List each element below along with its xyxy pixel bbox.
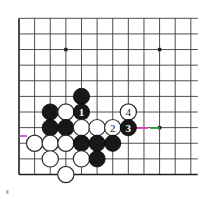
stone-white[interactable] bbox=[42, 135, 58, 151]
stone-black[interactable] bbox=[89, 151, 105, 167]
stone-white[interactable] bbox=[42, 151, 58, 167]
star-point bbox=[158, 48, 161, 51]
move-number-label: 3 bbox=[126, 122, 132, 134]
black-stone-icon bbox=[89, 151, 105, 167]
black-stone-icon bbox=[42, 120, 58, 136]
white-stone-icon bbox=[58, 135, 74, 151]
black-stone-icon bbox=[73, 135, 89, 151]
stone-white[interactable] bbox=[73, 120, 89, 136]
board-gridlines bbox=[19, 18, 198, 174]
black-stone-icon bbox=[58, 120, 74, 136]
stone-white[interactable] bbox=[58, 135, 74, 151]
stone-black[interactable] bbox=[73, 135, 89, 151]
star-point bbox=[64, 48, 67, 51]
move-number-label: 4 bbox=[126, 106, 132, 118]
black-stone-icon bbox=[73, 88, 89, 104]
go-diagram-root: 1423 bbox=[0, 0, 217, 199]
stone-white[interactable] bbox=[89, 120, 105, 136]
stone-black[interactable] bbox=[42, 120, 58, 136]
stone-white[interactable] bbox=[58, 166, 74, 182]
stone-black[interactable] bbox=[58, 120, 74, 136]
white-stone-icon bbox=[89, 120, 105, 136]
move-stone-4[interactable]: 4 bbox=[120, 104, 136, 120]
stone-black[interactable] bbox=[105, 135, 121, 151]
stone-white[interactable] bbox=[58, 104, 74, 120]
white-stone-icon bbox=[26, 135, 42, 151]
stone-white[interactable] bbox=[73, 151, 89, 167]
go-board[interactable]: 1423 bbox=[0, 0, 217, 199]
white-stone-icon bbox=[58, 166, 74, 182]
white-stone-icon bbox=[42, 151, 58, 167]
stone-black[interactable] bbox=[89, 135, 105, 151]
white-stone-icon bbox=[73, 120, 89, 136]
move-stone-2[interactable]: 2 bbox=[105, 120, 121, 136]
stone-white[interactable] bbox=[26, 135, 42, 151]
black-stone-icon bbox=[42, 104, 58, 120]
bottom-left-tick bbox=[6, 190, 9, 194]
board-corner-tick bbox=[6, 190, 9, 194]
black-stone-icon bbox=[105, 135, 121, 151]
move-stone-1[interactable]: 1 bbox=[73, 104, 89, 120]
move-number-label: 1 bbox=[79, 106, 85, 118]
black-stone-icon bbox=[89, 135, 105, 151]
stone-black[interactable] bbox=[42, 104, 58, 120]
stone-black[interactable] bbox=[73, 88, 89, 104]
white-stone-icon bbox=[58, 104, 74, 120]
white-stone-icon bbox=[42, 135, 58, 151]
move-stone-3[interactable]: 3 bbox=[120, 120, 136, 136]
white-stone-icon bbox=[73, 151, 89, 167]
move-number-label: 2 bbox=[110, 122, 116, 134]
